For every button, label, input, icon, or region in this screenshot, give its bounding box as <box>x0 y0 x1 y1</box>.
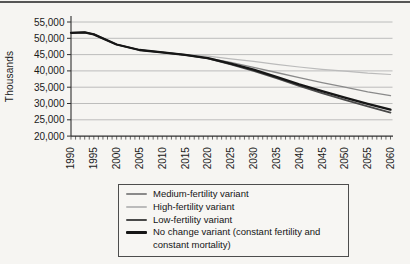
x-tick-label: 2010 <box>157 147 168 170</box>
legend-item-low-fertility: Low-fertility variant <box>126 214 342 227</box>
x-tick-label: 1990 <box>66 147 77 170</box>
x-tick-label: 2015 <box>180 147 191 170</box>
x-tick-label: 2025 <box>225 147 236 170</box>
legend-item-no-change: No change variant (constant fertility an… <box>126 226 342 252</box>
x-tick-label: 2000 <box>111 147 122 170</box>
y-axis-title: Thousands <box>4 42 15 112</box>
legend-label: No change variant (constant fertility an… <box>153 226 342 252</box>
y-tick-label: 40,000 <box>34 65 65 76</box>
y-tick-label: 35,000 <box>34 82 65 93</box>
series-line-high-fertility-variant <box>71 32 391 74</box>
y-tick-label: 30,000 <box>34 98 65 109</box>
chart-legend: Medium-fertility variant High-fertility … <box>118 184 349 257</box>
x-tick-label: 2020 <box>202 147 213 170</box>
x-tick-label: 2055 <box>362 147 373 170</box>
x-tick-label: 2030 <box>248 147 259 170</box>
x-tick-label: 2040 <box>294 147 305 170</box>
legend-swatch-medium-fertility <box>126 193 147 195</box>
x-tick-label: 2045 <box>317 147 328 170</box>
legend-swatch-no-change <box>126 231 147 234</box>
legend-label: Low-fertility variant <box>153 214 232 227</box>
legend-item-high-fertility: High-fertility variant <box>126 201 342 214</box>
legend-label: High-fertility variant <box>153 201 234 214</box>
legend-item-medium-fertility: Medium-fertility variant <box>126 188 342 201</box>
y-tick-label: 50,000 <box>34 33 65 44</box>
x-tick-label: 2035 <box>271 147 282 170</box>
legend-label: Medium-fertility variant <box>153 188 249 201</box>
x-tick-label: 2060 <box>385 147 396 170</box>
x-tick-label: 2005 <box>134 147 145 170</box>
y-tick-label: 45,000 <box>34 49 65 60</box>
y-tick-label: 25,000 <box>34 114 65 125</box>
legend-swatch-high-fertility <box>126 206 147 208</box>
x-tick-label: 1995 <box>88 147 99 170</box>
legend-swatch-low-fertility <box>126 219 147 222</box>
x-tick-label: 2050 <box>339 147 350 170</box>
plot-svg: 55,00050,00045,00040,00035,00030,00025,0… <box>0 0 410 182</box>
y-tick-label: 20,000 <box>34 131 65 142</box>
figure-page: 55,00050,00045,00040,00035,00030,00025,0… <box>0 0 410 264</box>
y-tick-label: 55,000 <box>34 17 65 28</box>
